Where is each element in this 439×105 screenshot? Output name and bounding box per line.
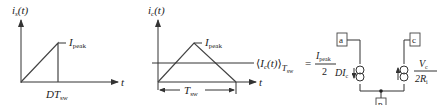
y-axis-label: ic(t) bbox=[148, 4, 165, 18]
circuit-model: a c p DIc Vc 2Ri bbox=[334, 33, 437, 105]
diagram-canvas: is(t) Ipeak DTsw t ic(t) Ipeak Tsw t ⟨Ic… bbox=[0, 0, 439, 105]
graph-capacitor-current: ic(t) Ipeak Tsw t bbox=[148, 4, 263, 98]
right-current-source bbox=[398, 66, 408, 81]
average-equation: ⟨Ic(t)⟩Tsw = Ipeak 2 bbox=[256, 50, 336, 77]
graph-switch-current: is(t) Ipeak DTsw t bbox=[12, 4, 125, 102]
y-axis-label: is(t) bbox=[12, 4, 29, 18]
equals-sign: = bbox=[305, 57, 311, 69]
right-source-denominator: 2Ri bbox=[415, 73, 428, 85]
fraction-numerator: Ipeak bbox=[315, 50, 331, 62]
left-current-source bbox=[354, 66, 364, 81]
x-axis-label: t bbox=[121, 76, 125, 88]
junction-node bbox=[379, 89, 383, 93]
ramp-waveform bbox=[21, 43, 58, 82]
duty-time-label: DTsw bbox=[45, 88, 69, 102]
x-axis-label: t bbox=[259, 76, 263, 88]
right-source-numerator: Vc bbox=[419, 58, 428, 70]
average-lhs: ⟨Ic(t)⟩Tsw bbox=[256, 57, 294, 74]
wire-a bbox=[346, 40, 360, 64]
peak-label: Ipeak bbox=[204, 36, 222, 50]
terminal-c-label: c bbox=[412, 35, 416, 45]
left-source-label: DIc bbox=[334, 67, 349, 79]
terminal-p-label: p bbox=[378, 99, 383, 105]
wire-c bbox=[404, 40, 410, 64]
period-label: Tsw bbox=[184, 84, 199, 98]
fraction-denominator: 2 bbox=[322, 66, 327, 77]
peak-label: Ipeak bbox=[68, 36, 86, 50]
terminal-a-label: a bbox=[339, 35, 343, 45]
